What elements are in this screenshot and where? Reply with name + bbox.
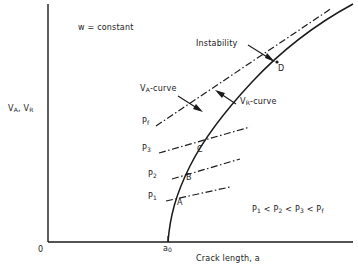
origin-label: 0 (38, 246, 43, 254)
initial-crack-length-label: a0 (163, 245, 172, 253)
y-axis-label-vr-sub: R (29, 106, 33, 113)
instability-annotation: Instability (196, 40, 237, 48)
vr-curve-annotation: VR-curve (240, 98, 277, 106)
load-inequality-note: P1 < P2 < P3 < Pf (252, 206, 324, 214)
fracture-r-curve-figure: VA, VR 0 a0 Crack length, a w = constant… (0, 0, 358, 269)
plot-canvas (0, 0, 358, 269)
x-axis-label: Crack length, a (196, 255, 260, 263)
va-curve-annotation: VA-curve (140, 85, 177, 93)
ineq-lt2: < P (283, 205, 300, 214)
point-label-d: D (278, 65, 284, 73)
load-label-p3-sub: 3 (147, 146, 151, 153)
ineq-lt1: < P (261, 205, 278, 214)
y-axis-label-sep: , V (18, 104, 29, 113)
vr-curve-tail: -curve (250, 97, 277, 106)
va-curve-arrowhead (193, 104, 203, 112)
load-label-p3: P3 (142, 145, 151, 153)
load-label-pf-sub: f (147, 119, 149, 126)
va-load-line-p3 (159, 127, 250, 153)
point-label-b: B (186, 174, 192, 182)
ineq-pf-sub: f (321, 207, 323, 214)
point-label-a: A (177, 199, 183, 207)
load-label-p1-sub: 1 (153, 194, 157, 201)
condition-note: w = constant (78, 24, 134, 32)
va-load-line-p2 (172, 159, 240, 179)
point-label-c: C (197, 146, 203, 154)
load-label-p2: P2 (148, 171, 157, 179)
vr-curve-arrowhead (215, 90, 225, 98)
va-load-line-p1 (166, 187, 230, 201)
va-load-line-pf (156, 8, 332, 126)
instability-arrowhead (265, 53, 275, 62)
load-label-pf: Pf (142, 118, 149, 126)
ineq-lt3: < P (304, 205, 321, 214)
initial-crack-sub: 0 (168, 246, 172, 253)
load-label-p2-sub: 2 (153, 172, 157, 179)
y-axis-label: VA, VR (8, 105, 34, 113)
va-curve-tail: -curve (150, 84, 177, 93)
load-label-p1: P1 (148, 193, 157, 201)
